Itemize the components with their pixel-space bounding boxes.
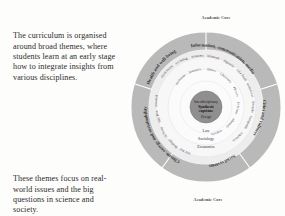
paragraph-bottom: These themes focus on real-world issues … <box>13 174 121 216</box>
discipline-label: Law <box>203 129 210 133</box>
curriculum-wheel-diagram: Academic Core <box>131 11 281 207</box>
paragraph-top: The curriculum is organised around broad… <box>13 31 121 83</box>
core-label-synthesis: Synthesis <box>198 105 214 109</box>
discipline-label: Economics <box>197 145 215 149</box>
core-label-interdisciplinary: Interdisciplinary <box>194 100 218 104</box>
document-page: The curriculum is organised around broad… <box>0 0 285 216</box>
diagram-caption-bottom: Academic Core <box>133 197 283 202</box>
wheel-graphic: Health and well-being Information, commu… <box>131 27 281 191</box>
core-label-capstone: capstone <box>199 109 214 113</box>
discipline-label: Sociology <box>198 137 214 141</box>
diagram-caption-top: Academic Core <box>141 15 285 20</box>
core-label-design: Design <box>201 115 211 119</box>
